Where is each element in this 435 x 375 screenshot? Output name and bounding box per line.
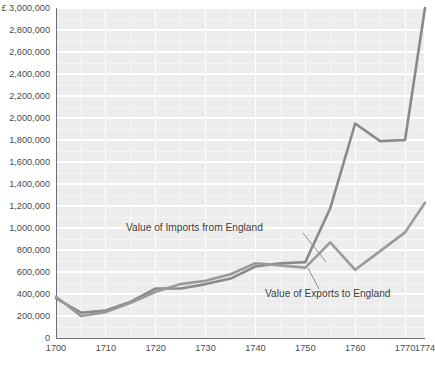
y-axis-tick: 400,000 [17, 289, 50, 299]
x-axis-tick-labels: 170017101720173017401750176017701774 [46, 343, 435, 353]
y-axis-tick: 1,400,000 [9, 179, 50, 189]
y-axis-tick: 1,600,000 [9, 157, 50, 167]
x-axis-tick: 1760 [345, 343, 365, 353]
y-axis-tick-labels: 0200,000400,000600,000800,0001,000,0001,… [1, 3, 50, 343]
y-axis-tick: 2,800,000 [9, 25, 50, 35]
annotation-label-1: Value of Imports from England [126, 222, 263, 233]
y-axis-tick: 200,000 [17, 311, 50, 321]
y-axis-tick: 1,200,000 [9, 201, 50, 211]
y-axis-tick: 2,600,000 [9, 47, 50, 57]
x-axis-tick: 1774 [415, 343, 435, 353]
line-chart: 0200,000400,000600,000800,0001,000,0001,… [0, 0, 435, 375]
x-axis-tick: 1770 [395, 343, 415, 353]
y-axis-tick: 0 [45, 333, 50, 343]
y-axis-tick: 600,000 [17, 267, 50, 277]
y-axis-tick: 2,400,000 [9, 69, 50, 79]
x-axis-tick: 1730 [195, 343, 215, 353]
y-axis-tick: 800,000 [17, 245, 50, 255]
x-axis-tick: 1700 [46, 343, 66, 353]
y-axis-tick: 2,000,000 [9, 113, 50, 123]
y-axis-tick: 1,800,000 [9, 135, 50, 145]
x-axis-tick: 1740 [245, 343, 265, 353]
y-axis-unit-label: £ 3,000,000 [1, 3, 50, 13]
x-axis-tick: 1710 [96, 343, 116, 353]
annotation-label-2: Value of Exports to England [265, 288, 391, 299]
y-axis-tick: 2,200,000 [9, 91, 50, 101]
x-axis-tick: 1750 [295, 343, 315, 353]
y-axis-tick: 1,000,000 [9, 223, 50, 233]
x-axis-tick: 1720 [146, 343, 166, 353]
chart-container: 0200,000400,000600,000800,0001,000,0001,… [0, 0, 435, 375]
